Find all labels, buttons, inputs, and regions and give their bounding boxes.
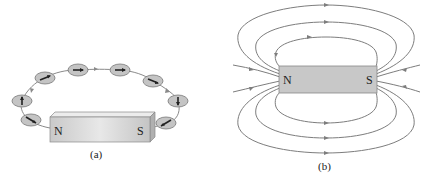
north-pole-label-a: N — [54, 124, 63, 138]
magnet-figure: N S — [0, 0, 431, 173]
panel-a: N S — [12, 64, 188, 161]
compass-8 — [156, 117, 176, 129]
compass-2 — [12, 95, 32, 107]
south-pole-label-a: S — [137, 124, 144, 138]
compass-3 — [35, 72, 55, 84]
north-pole-label-b: N — [283, 73, 292, 87]
south-pole-label-b: S — [366, 73, 373, 87]
caption-a: (a) — [90, 148, 103, 161]
field-line-right-lower — [376, 81, 420, 92]
compass-4 — [68, 64, 88, 76]
bar-magnet-b: N S — [279, 66, 377, 93]
compass-1 — [21, 114, 41, 126]
field-line-top-inner — [275, 37, 377, 67]
compass-7 — [168, 95, 188, 107]
compass-5 — [110, 64, 130, 76]
compass-6 — [143, 75, 163, 87]
field-line-bottom-inner — [275, 92, 377, 123]
bar-magnet-a: N S — [50, 112, 155, 142]
caption-b: (b) — [318, 160, 331, 173]
field-line-left-lower — [233, 81, 280, 92]
